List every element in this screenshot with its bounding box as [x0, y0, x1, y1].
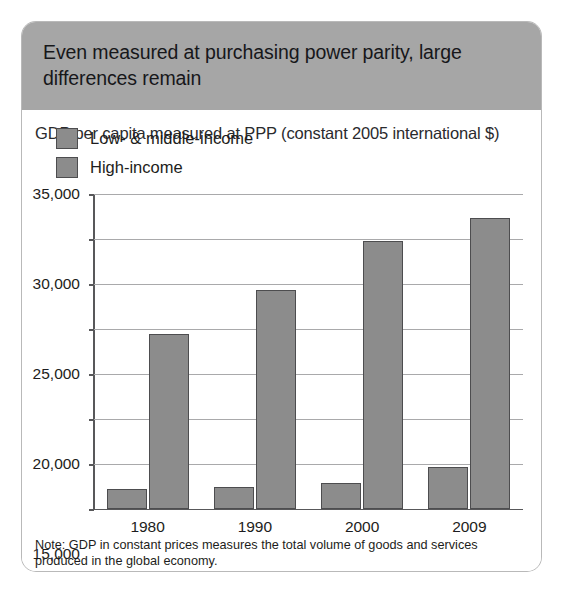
figure-footnote: Note: GDP in constant prices measures th…: [35, 538, 527, 571]
legend-item: Low- & middle-income: [56, 124, 278, 153]
y-axis-label: 35,000: [33, 185, 80, 203]
figure-body: GDP per capita measured at PPP (constant…: [22, 110, 541, 571]
figure-header-band: Even measured at purchasing power parity…: [22, 22, 541, 110]
legend-swatch-icon: [56, 128, 78, 149]
gridline: [94, 194, 523, 195]
x-axis-label: 1990: [238, 518, 272, 536]
figure-title: Even measured at purchasing power parity…: [43, 39, 513, 91]
x-axis-label: 2000: [345, 518, 379, 536]
bar: [256, 290, 296, 509]
y-axis-line: [93, 194, 95, 510]
y-axis-tick: 20,000: [89, 329, 94, 331]
bar: [149, 334, 189, 509]
gridline: [94, 329, 523, 330]
bar: [321, 483, 361, 509]
bar: [470, 218, 510, 509]
legend-label: High-income: [90, 158, 183, 177]
y-axis-tick: 35,000: [89, 194, 94, 196]
bar: [363, 241, 403, 509]
bar: [428, 467, 468, 509]
legend-item: High-income: [56, 153, 278, 182]
y-axis-tick: 25,000: [89, 284, 94, 286]
chart-plot-area: 05,00010,00015,00020,00025,00030,00035,0…: [94, 194, 523, 509]
x-axis-label: 1980: [130, 518, 164, 536]
chart-legend: Low- & middle-incomeHigh-income: [56, 124, 278, 182]
y-axis-tick: 15,000: [89, 374, 94, 376]
y-axis-label: 25,000: [33, 365, 80, 383]
y-axis-label: 30,000: [33, 275, 80, 293]
footnote-note: Note: GDP in constant prices measures th…: [35, 538, 527, 569]
footnote-source: Source: World Bank, World Development In…: [35, 569, 527, 571]
gridline: [94, 239, 523, 240]
x-axis-label: 2009: [452, 518, 486, 536]
figure-card: Even measured at purchasing power parity…: [22, 22, 541, 571]
y-axis-tick: 10,000: [89, 419, 94, 421]
legend-label: Low- & middle-income: [90, 129, 253, 148]
y-axis-tick: 0: [89, 509, 94, 511]
y-axis-tick: 30,000: [89, 239, 94, 241]
bar: [214, 487, 254, 510]
y-axis-label: 20,000: [33, 455, 80, 473]
gridline: [94, 284, 523, 285]
y-axis-tick: 5,000: [89, 464, 94, 466]
legend-swatch-icon: [56, 157, 78, 178]
bar: [107, 489, 147, 509]
